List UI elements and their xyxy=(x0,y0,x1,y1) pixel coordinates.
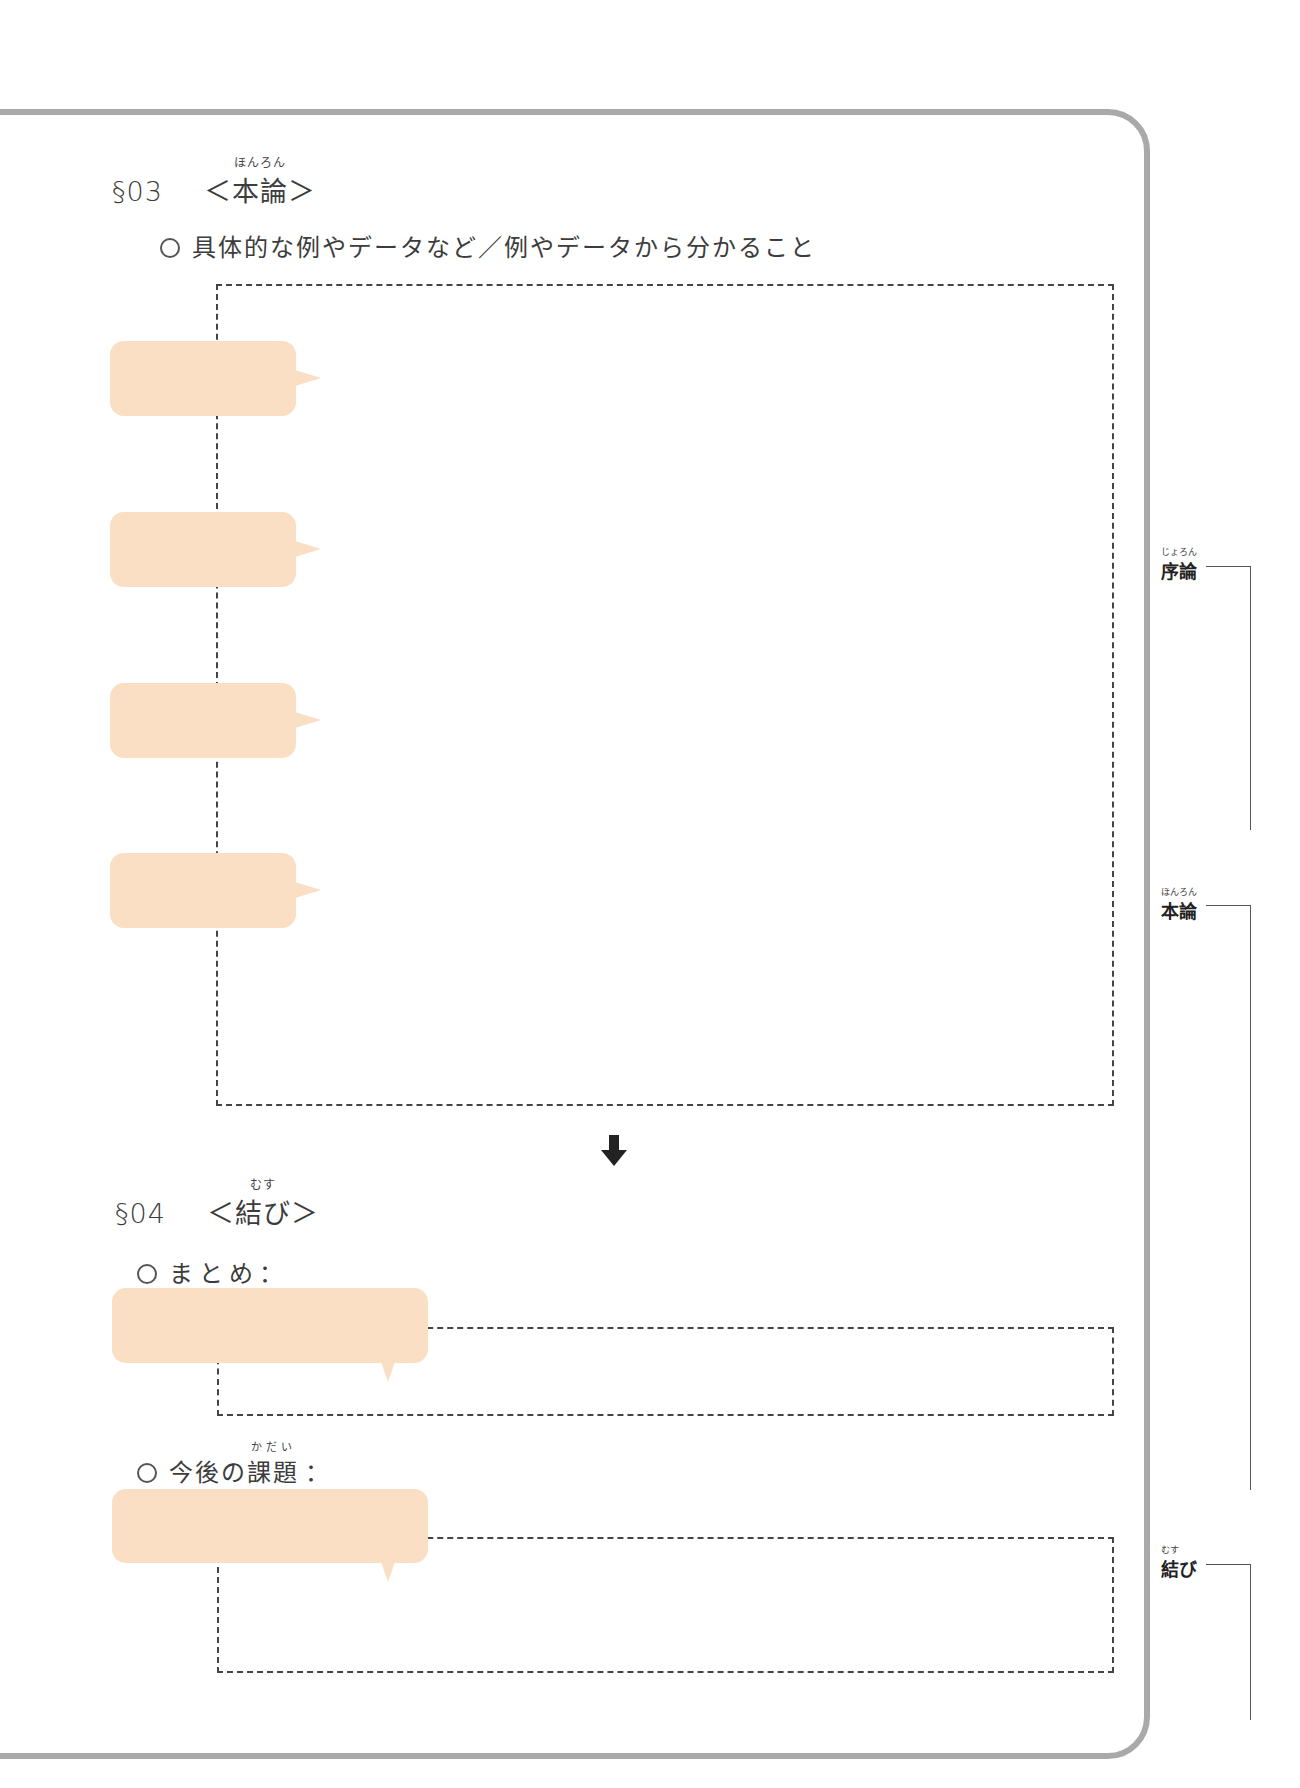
example-bubble-4[interactable] xyxy=(110,853,296,928)
sidebar-bracket xyxy=(1250,566,1251,830)
section-03-number: §03 xyxy=(112,176,163,207)
bubble-tail-icon xyxy=(295,882,321,898)
example-bubble-1[interactable] xyxy=(110,341,296,416)
section-04-number: §04 xyxy=(115,1198,166,1229)
section-03-open-bracket: ＜ xyxy=(204,176,232,207)
sidebar-label-conclusion: むす結び xyxy=(1161,1555,1197,1581)
sidebar-bracket xyxy=(1206,1564,1251,1565)
bubble-tail-icon xyxy=(381,1362,395,1382)
example-bubble-3[interactable] xyxy=(110,683,296,758)
section-03-title-ruby: ほんろん xyxy=(232,153,288,170)
bubble-tail-icon xyxy=(295,370,321,386)
summary-bubble[interactable] xyxy=(112,1288,428,1363)
section-04-title: むす結び xyxy=(235,1192,291,1231)
section-03-close-bracket: ＞ xyxy=(288,176,316,207)
section-03-title: ほんろん本論 xyxy=(232,170,288,209)
future-tasks-ruby: かだい xyxy=(247,1438,299,1454)
section-04-heading: §04 ＜むす結び＞ xyxy=(115,1192,319,1231)
section-03-answer-box[interactable] xyxy=(216,284,1114,1106)
sidebar-bracket xyxy=(1250,1564,1251,1720)
down-arrow-icon xyxy=(600,1135,628,1167)
bubble-tail-icon xyxy=(381,1562,395,1582)
example-bubble-2[interactable] xyxy=(110,512,296,587)
prompt-text: 具体的な例やデータなど／例やデータから分かること xyxy=(192,234,816,262)
section-03-prompt: 具体的な例やデータなど／例やデータから分かること xyxy=(160,228,816,263)
future-tasks-label: 今後のかだい課題： xyxy=(137,1453,331,1488)
section-04-open-bracket: ＜ xyxy=(207,1198,235,1229)
sidebar-bracket xyxy=(1250,905,1251,1490)
circle-bullet-icon xyxy=(160,238,180,258)
section-04-close-bracket: ＞ xyxy=(291,1198,319,1229)
sidebar-label-introduction: じょろん序論 xyxy=(1161,557,1197,583)
bubble-tail-icon xyxy=(295,541,321,557)
circle-bullet-icon xyxy=(137,1264,157,1284)
bubble-tail-icon xyxy=(295,712,321,728)
section-03-heading: §03 ＜ほんろん本論＞ xyxy=(112,170,316,209)
summary-label: まとめ： xyxy=(137,1254,289,1289)
sidebar-label-main-body: ほんろん本論 xyxy=(1161,897,1197,923)
section-04-title-ruby: むす xyxy=(235,1175,291,1192)
future-tasks-bubble[interactable] xyxy=(112,1489,428,1563)
sidebar-bracket xyxy=(1206,566,1251,567)
circle-bullet-icon xyxy=(137,1463,157,1483)
sidebar-bracket xyxy=(1206,905,1251,906)
